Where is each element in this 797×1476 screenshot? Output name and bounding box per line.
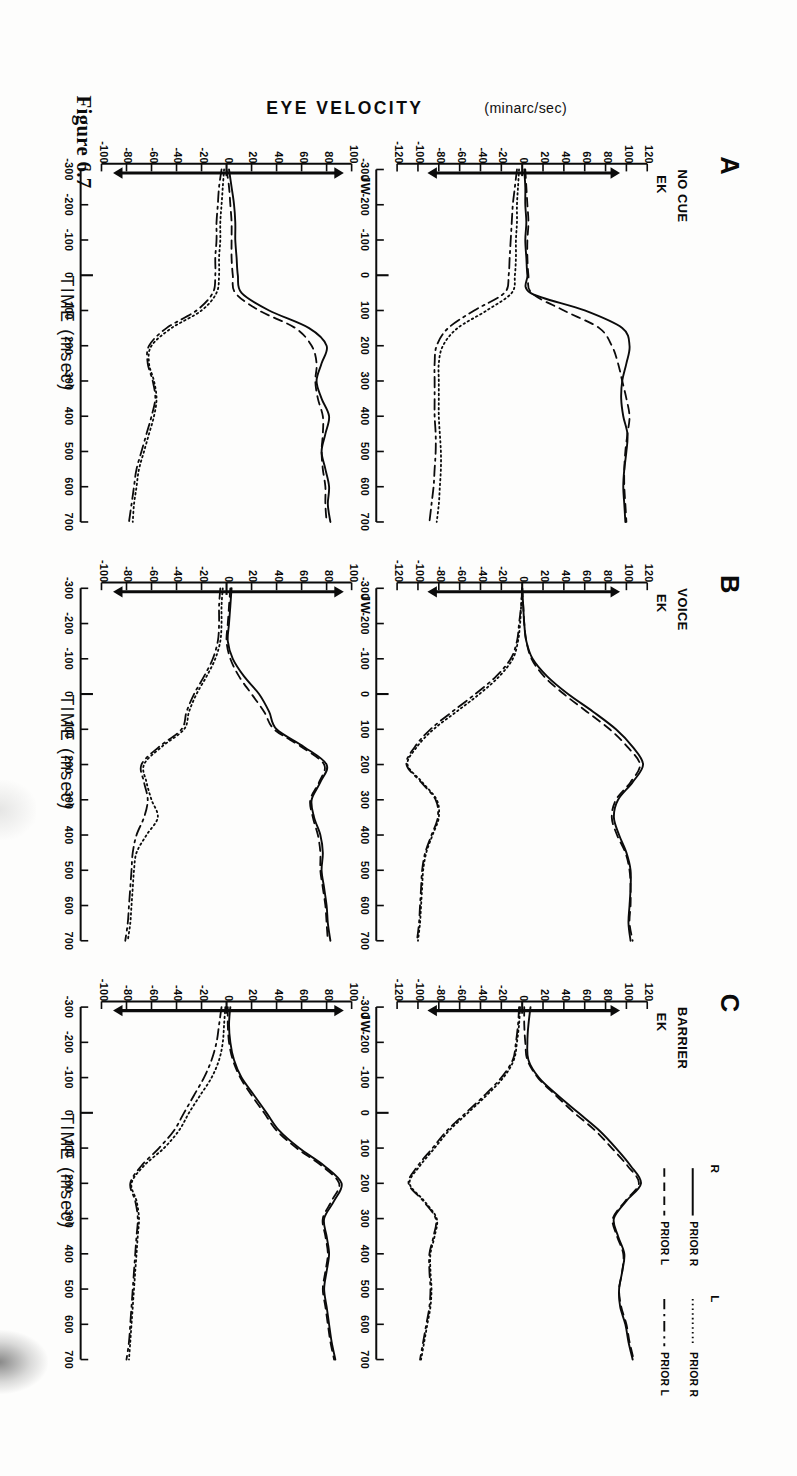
condition-label-barrier: BARRIER (674, 1007, 688, 1069)
y-axis-unit: (minarc/sec) (484, 99, 567, 115)
panel-letter-a: A (714, 156, 743, 175)
legend-text-layer: RPRIOR RPRIOR LLPRIOR RPRIOR L (588, 1162, 721, 1408)
condition-label-voice: VOICE (674, 588, 688, 631)
figure-plane: EYE VELOCITY (minarc/sec) Figure 6.7 A B… (38, 75, 758, 1402)
scan-smudge-artifact-secondary (0, 780, 36, 840)
panel-letter-c: C (714, 994, 743, 1013)
y-axis-label: EYE VELOCITY (266, 97, 423, 118)
legend-group-head-r: R (707, 1164, 720, 1173)
panel-letter-b: B (714, 575, 743, 594)
legend-entry-label: PRIOR L (659, 1221, 670, 1265)
legend-entry-label: PRIOR L (659, 1352, 670, 1396)
legend-entry-label: PRIOR R (687, 1352, 698, 1397)
condition-label-no-cue: NO CUE (674, 170, 688, 223)
legend-group-head-l: L (707, 1295, 720, 1302)
legend-entry-label: PRIOR R (687, 1221, 698, 1266)
